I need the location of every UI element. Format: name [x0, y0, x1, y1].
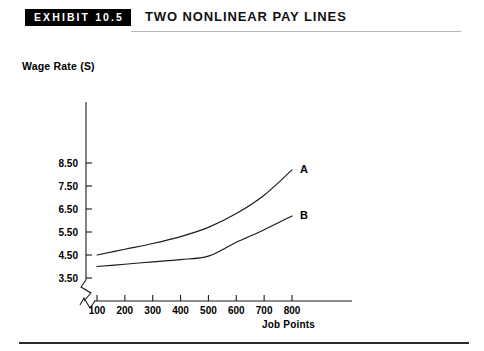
exhibit-header: EXHIBIT 10.5 TWO NONLINEAR PAY LINES [0, 0, 484, 40]
y-tick-label: 5.50 [59, 227, 79, 238]
y-axis-break-icon [81, 280, 91, 301]
data-series-group: AB [97, 163, 308, 267]
x-tick-label: 800 [284, 305, 301, 316]
x-tick-group: 100200300400500600700800 [89, 295, 301, 316]
x-tick-label: 200 [117, 305, 134, 316]
x-tick-label: 500 [200, 305, 217, 316]
chart-figure: Wage Rate (S) Job Points 3.504.505.506.5… [0, 40, 484, 340]
exhibit-page: EXHIBIT 10.5 TWO NONLINEAR PAY LINES Wag… [0, 0, 484, 351]
x-tick-label: 400 [172, 305, 189, 316]
y-tick-group: 3.504.505.506.507.508.50 [59, 158, 92, 284]
y-tick-label: 8.50 [59, 158, 79, 169]
data-curve-a [97, 170, 292, 255]
x-tick-label: 300 [144, 305, 161, 316]
plot-canvas: 3.504.505.506.507.508.50 100200300400500… [0, 40, 484, 340]
y-tick-label: 7.50 [59, 181, 79, 192]
y-tick-label: 4.50 [59, 250, 79, 261]
x-tick-label: 700 [256, 305, 273, 316]
exhibit-number-badge: EXHIBIT 10.5 [25, 9, 131, 26]
series-label-a: A [300, 163, 308, 175]
exhibit-title: TWO NONLINEAR PAY LINES [145, 8, 347, 26]
header-divider [131, 31, 461, 32]
axes-group [80, 102, 352, 308]
y-tick-label: 6.50 [59, 204, 79, 215]
data-curve-b [97, 216, 292, 267]
footer-divider [19, 342, 469, 344]
series-label-b: B [300, 209, 308, 221]
y-tick-label: 3.50 [59, 273, 79, 284]
x-tick-label: 600 [228, 305, 245, 316]
x-tick-label: 100 [89, 305, 106, 316]
